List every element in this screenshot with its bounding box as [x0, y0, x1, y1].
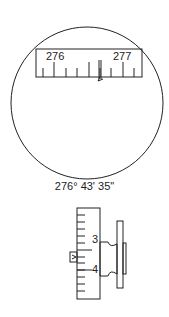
micrometer-disk [117, 221, 123, 288]
scale-label-277: 277 [113, 51, 131, 62]
index-mark [98, 60, 103, 81]
angle-reading: 276° 43' 35" [0, 180, 169, 192]
scale-label-276: 276 [46, 51, 64, 62]
diagram-canvas [0, 0, 169, 317]
degree-scale-ticks [43, 62, 134, 77]
micrometer-knob [123, 243, 126, 274]
index-pointer-icon [72, 255, 76, 259]
micrometer-hub [100, 242, 117, 276]
micrometer-label-3: 3 [92, 234, 98, 245]
field-of-view-circle [11, 27, 163, 179]
micrometer-label-4: 4 [92, 264, 98, 275]
micrometer-scale-ticks [77, 215, 92, 291]
